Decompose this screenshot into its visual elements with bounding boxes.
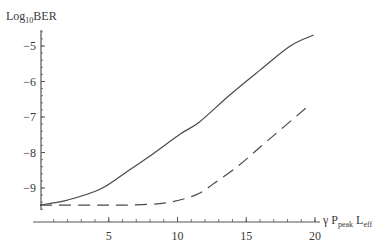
dashed-ber-curve (40, 104, 311, 205)
y-tick-label: −9 (23, 181, 36, 195)
x-tick-label: 20 (309, 229, 321, 243)
ber-chart: −5−6−7−8−9 5101520 Log10BER γ Ppeak Leff (0, 0, 389, 249)
x-tick-label: 5 (106, 229, 112, 243)
y-axis-label: Log10BER (6, 9, 57, 25)
y-tick-label: −6 (23, 75, 36, 89)
y-tick-label: −7 (23, 110, 36, 124)
y-tick-label: −5 (23, 39, 36, 53)
x-axis: 5101520 (33, 217, 321, 243)
y-tick-label: −8 (23, 146, 36, 160)
x-axis-label: γ Ppeak Leff (322, 213, 373, 229)
x-tick-label: 10 (172, 229, 184, 243)
solid-ber-curve (40, 35, 314, 205)
x-tick-label: 15 (240, 229, 252, 243)
data-series (40, 35, 314, 205)
y-axis: −5−6−7−8−9 (23, 30, 45, 210)
